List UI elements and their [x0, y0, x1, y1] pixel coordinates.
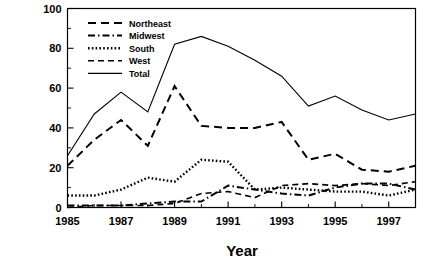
series-line-midwest	[68, 184, 416, 206]
y-tick-label: 40	[49, 122, 61, 134]
x-tick-label: 1991	[216, 215, 240, 227]
legend-label-midwest: Midwest	[129, 31, 165, 41]
x-tick-label: 1993	[269, 215, 293, 227]
legend-label-south: South	[129, 44, 155, 54]
series-line-south	[68, 160, 416, 196]
line-chart: 020406080100 198519871989199119931995199…	[0, 0, 442, 262]
y-tick-label: 100	[43, 3, 61, 15]
chart-canvas: 020406080100 198519871989199119931995199…	[0, 0, 442, 262]
legend-label-northeast: Northeast	[129, 19, 171, 29]
x-tick-label: 1985	[55, 215, 79, 227]
data-series-group	[68, 36, 416, 207]
x-tick-label: 1997	[376, 215, 400, 227]
y-tick-label: 20	[49, 162, 61, 174]
legend-label-total: Total	[129, 69, 150, 79]
y-tick-label: 60	[49, 82, 61, 94]
x-tick-label: 1987	[109, 215, 133, 227]
y-tick-label: 0	[55, 202, 61, 214]
y-axis-ticks: 020406080100	[43, 3, 73, 214]
series-line-west	[68, 182, 416, 208]
series-line-total	[68, 36, 416, 155]
figure-caption	[0, 252, 442, 262]
x-tick-label: 1989	[162, 215, 186, 227]
y-tick-label: 80	[49, 42, 61, 54]
chart-legend: NortheastMidwestSouthWestTotal	[88, 19, 171, 79]
x-tick-label: 1995	[323, 215, 347, 227]
legend-label-west: West	[129, 56, 150, 66]
series-line-northeast	[68, 86, 416, 172]
plot-frame	[68, 9, 416, 208]
